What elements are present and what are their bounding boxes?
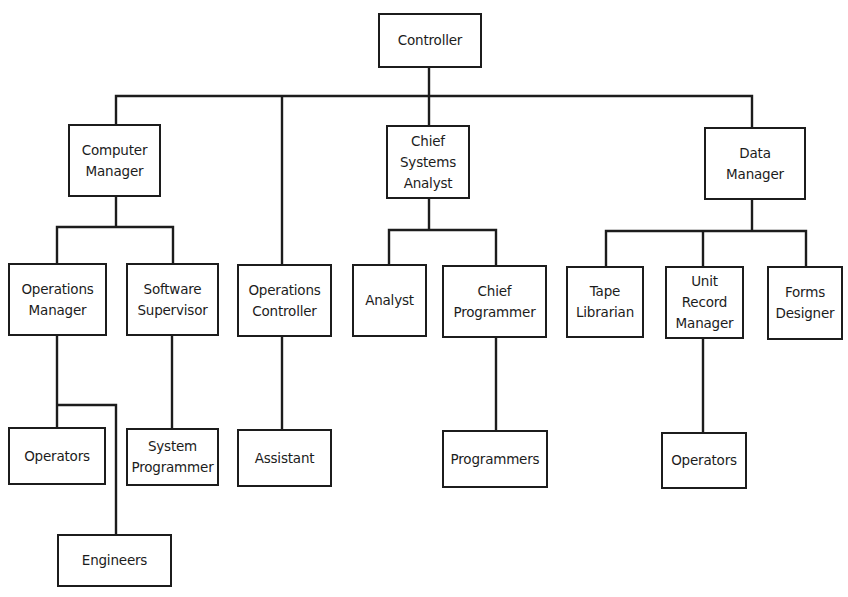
node-system-programmer: System Programmer (126, 428, 219, 486)
node-programmers: Programmers (442, 430, 548, 488)
node-label: Software Supervisor (137, 279, 207, 321)
node-label: Operators (671, 450, 737, 471)
node-operations-manager: Operations Manager (8, 263, 107, 336)
node-unit-record-manager: Unit Record Manager (665, 266, 744, 339)
node-analyst: Analyst (352, 264, 427, 337)
node-label: Unit Record Manager (676, 271, 734, 334)
node-label: Engineers (82, 550, 147, 571)
connector-line (116, 96, 752, 127)
node-label: Computer Manager (82, 140, 148, 182)
node-label: Chief Programmer (454, 281, 536, 323)
node-label: Tape Librarian (576, 281, 634, 323)
node-chief-programmer: Chief Programmer (442, 265, 547, 338)
node-label: System Programmer (132, 436, 214, 478)
node-assistant: Assistant (237, 429, 332, 487)
node-label: Programmers (451, 449, 540, 470)
node-engineers: Engineers (57, 534, 172, 587)
node-label: Chief Systems Analyst (400, 131, 456, 194)
node-controller: Controller (378, 13, 482, 68)
node-label: Data Manager (726, 143, 784, 185)
node-label: Analyst (365, 290, 414, 311)
node-data-manager: Data Manager (704, 127, 806, 200)
node-operations-controller: Operations Controller (237, 264, 332, 337)
node-computer-manager: Computer Manager (68, 124, 161, 197)
node-label: Operations Manager (21, 279, 93, 321)
org-chart: ControllerComputer ManagerChief Systems … (0, 0, 848, 597)
node-label: Assistant (255, 448, 315, 469)
node-chief-systems-analyst: Chief Systems Analyst (386, 125, 470, 199)
node-operators-computer: Operators (8, 427, 106, 485)
connector-line (606, 231, 806, 266)
connector-line (389, 230, 496, 265)
node-tape-librarian: Tape Librarian (566, 266, 644, 338)
node-forms-designer: Forms Designer (767, 266, 843, 340)
node-operators-data: Operators (661, 432, 747, 489)
node-label: Operators (24, 446, 90, 467)
node-label: Forms Designer (776, 282, 835, 324)
node-label: Controller (398, 30, 462, 51)
connector-line (57, 227, 173, 263)
node-software-supervisor: Software Supervisor (126, 263, 219, 336)
node-label: Operations Controller (248, 280, 320, 322)
